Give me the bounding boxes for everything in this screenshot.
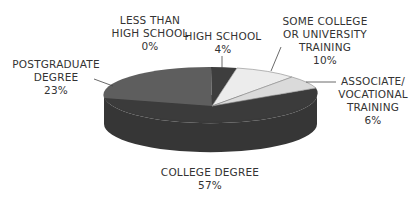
label-college-degree: COLLEGE DEGREE 57% xyxy=(150,166,270,192)
label-associate: ASSOCIATE/ VOCATIONAL TRAINING 6% xyxy=(333,75,413,127)
label-value: 4% xyxy=(183,43,263,56)
label-value: 10% xyxy=(275,54,375,67)
label-line: HIGH SCHOOL xyxy=(183,30,263,43)
label-line: POSTGRADUATE xyxy=(10,58,102,71)
label-some-college: SOME COLLEGE OR UNIVERSITY TRAINING 10% xyxy=(275,15,375,67)
label-line: TRAINING xyxy=(333,101,413,114)
label-value: 57% xyxy=(150,179,270,192)
label-line: DEGREE xyxy=(10,71,102,84)
label-value: 23% xyxy=(10,84,102,97)
label-line: TRAINING xyxy=(275,41,375,54)
label-line: LESS THAN xyxy=(100,14,200,27)
label-line: OR UNIVERSITY xyxy=(275,28,375,41)
label-postgraduate: POSTGRADUATE DEGREE 23% xyxy=(10,58,102,97)
label-high-school: HIGH SCHOOL 4% xyxy=(183,30,263,56)
label-line: VOCATIONAL xyxy=(333,88,413,101)
label-value: 6% xyxy=(333,114,413,127)
label-line: SOME COLLEGE xyxy=(275,15,375,28)
label-line: ASSOCIATE/ xyxy=(333,75,413,88)
label-line: COLLEGE DEGREE xyxy=(150,166,270,179)
